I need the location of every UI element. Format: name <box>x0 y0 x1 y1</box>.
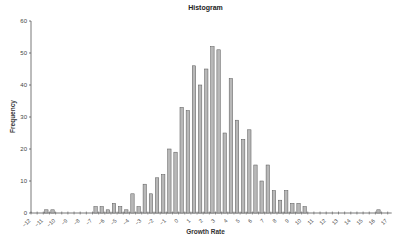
histogram-bar <box>217 50 220 213</box>
histogram-bar <box>168 149 171 213</box>
histogram-bar <box>106 210 109 213</box>
histogram-bar <box>112 203 115 213</box>
histogram-bar <box>131 194 134 213</box>
histogram-bar <box>297 203 300 213</box>
histogram-bar <box>118 207 121 213</box>
x-tick-label: 4 <box>222 217 228 223</box>
y-tick-label: 0 <box>24 210 28 216</box>
x-tick-label: 1 <box>185 217 191 223</box>
x-tick-label: 3 <box>210 217 216 223</box>
x-tick-label: 0 <box>173 217 179 223</box>
histogram-bar <box>162 175 165 213</box>
histogram-bar <box>192 66 195 213</box>
histogram-bar <box>303 207 306 213</box>
histogram-bar <box>266 165 269 213</box>
histogram-bar <box>229 79 232 213</box>
histogram-bar <box>51 210 54 213</box>
histogram-bar <box>241 139 244 213</box>
y-tick-label: 60 <box>20 18 27 24</box>
histogram-bar <box>235 120 238 213</box>
y-tick-label: 20 <box>20 146 27 152</box>
y-tick-label: 10 <box>20 178 27 184</box>
x-tick-label: 13 <box>331 217 340 226</box>
histogram-bar <box>223 133 226 213</box>
histogram-bar <box>291 203 294 213</box>
histogram-bar <box>272 191 275 213</box>
x-tick-label: −7 <box>85 217 94 226</box>
x-tick-label: 10 <box>294 217 303 226</box>
x-tick-label: 15 <box>355 217 364 226</box>
x-tick-label: −10 <box>45 217 56 228</box>
x-tick-label: 5 <box>234 217 240 223</box>
x-tick-label: −6 <box>97 217 106 226</box>
y-tick-label: 30 <box>20 114 27 120</box>
histogram-bar <box>174 152 177 213</box>
x-tick-label: −4 <box>121 217 130 226</box>
histogram-bar <box>149 194 152 213</box>
histogram-bar <box>100 207 103 213</box>
plot-area: 0102030405060−12−11−10−9−8−7−6−5−4−3−2−1… <box>0 0 411 245</box>
x-tick-label: −12 <box>21 217 32 228</box>
x-tick-label: −11 <box>33 217 44 228</box>
x-tick-label: 14 <box>343 217 352 226</box>
histogram-bar <box>125 210 128 213</box>
y-tick-label: 50 <box>20 50 27 56</box>
x-tick-label: −1 <box>158 217 167 226</box>
x-tick-label: 12 <box>318 217 327 226</box>
x-tick-label: −3 <box>134 217 143 226</box>
histogram-bar <box>45 210 48 213</box>
histogram-bar <box>211 47 214 213</box>
histogram-bar <box>285 191 288 213</box>
histogram-bar <box>205 69 208 213</box>
histogram-bar <box>248 130 251 213</box>
histogram-bar <box>137 207 140 213</box>
histogram-bar <box>254 165 257 213</box>
histogram-bar <box>186 111 189 213</box>
x-tick-label: 7 <box>259 217 265 223</box>
x-tick-label: 6 <box>247 217 253 223</box>
x-tick-label: 2 <box>197 217 203 223</box>
histogram-bar <box>278 200 281 213</box>
histogram-bar <box>94 207 97 213</box>
x-tick-label: −2 <box>146 217 155 226</box>
x-tick-label: 8 <box>271 217 277 223</box>
x-tick-label: 11 <box>306 217 314 225</box>
x-tick-label: 17 <box>380 217 389 226</box>
x-tick-label: 9 <box>284 217 290 223</box>
x-tick-label: −9 <box>60 217 69 226</box>
y-tick-label: 40 <box>20 82 27 88</box>
x-tick-label: −5 <box>109 217 118 226</box>
histogram-bar <box>180 107 183 213</box>
histogram-bar <box>155 178 158 213</box>
x-tick-label: −8 <box>72 217 81 226</box>
histogram-bar <box>377 210 380 213</box>
histogram-bar <box>143 184 146 213</box>
x-tick-label: 16 <box>368 217 377 226</box>
histogram-bar <box>198 85 201 213</box>
histogram-bar <box>260 181 263 213</box>
